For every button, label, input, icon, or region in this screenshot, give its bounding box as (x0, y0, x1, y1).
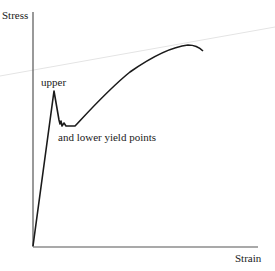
upper-yield-label: upper (41, 77, 66, 88)
y-axis-label: Stress (2, 10, 28, 21)
lower-yield-label: and lower yield points (58, 132, 156, 143)
x-axis-label: Strain (235, 253, 261, 264)
faint-guide-line (0, 27, 275, 76)
